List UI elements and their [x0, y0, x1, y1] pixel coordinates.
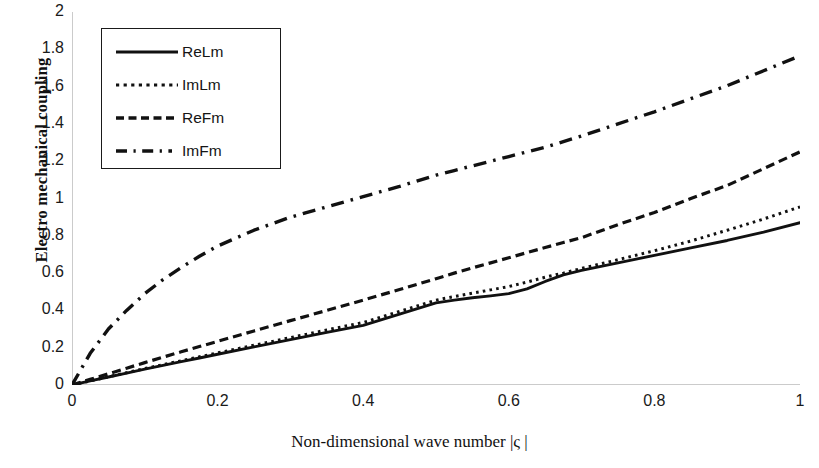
series-line-refm — [72, 152, 800, 385]
legend-item-refm: ReFm — [102, 101, 280, 134]
y-tick-label: 0.2 — [8, 338, 64, 356]
y-tick-label: 1.4 — [8, 114, 64, 132]
legend-item-relm: ReLm — [102, 35, 280, 68]
y-tick-label: 0.4 — [8, 300, 64, 318]
chart-figure: Electro mechanical coupling Non-dimensio… — [0, 0, 819, 468]
legend-box: ReLm ImLm ReFm ImFm — [101, 28, 281, 169]
x-tick-label: 0.2 — [188, 392, 248, 410]
y-tick-label: 0 — [8, 375, 64, 393]
y-tick-label: 1 — [8, 189, 64, 207]
legend-label-relm: ReLm — [182, 43, 223, 61]
legend-swatch-dashdot — [114, 144, 180, 158]
x-tick-label: 1 — [770, 392, 819, 410]
legend-swatch-solid — [114, 45, 180, 59]
legend-item-imfm: ImFm — [102, 134, 280, 167]
y-tick-label: 1.6 — [8, 77, 64, 95]
y-tick-label: 0.8 — [8, 226, 64, 244]
series-line-imlm — [72, 207, 800, 385]
y-tick-label: 0.6 — [8, 263, 64, 281]
legend-swatch-dashed — [114, 111, 180, 125]
legend-label-refm: ReFm — [182, 109, 224, 127]
x-tick-label: 0.4 — [333, 392, 393, 410]
x-tick-label: 0 — [42, 392, 102, 410]
y-tick-label: 2 — [8, 2, 64, 20]
series-line-relm — [72, 223, 800, 385]
legend-label-imfm: ImFm — [182, 142, 222, 160]
y-tick-label: 1.2 — [8, 151, 64, 169]
x-tick-label: 0.8 — [624, 392, 684, 410]
x-tick-label: 0.6 — [479, 392, 539, 410]
legend-label-imlm: ImLm — [182, 76, 221, 94]
x-axis-title: Non-dimensional wave number |ς | — [0, 432, 819, 452]
legend-item-imlm: ImLm — [102, 68, 280, 101]
y-tick-label: 1.8 — [8, 39, 64, 57]
legend-swatch-dotted — [114, 78, 180, 92]
